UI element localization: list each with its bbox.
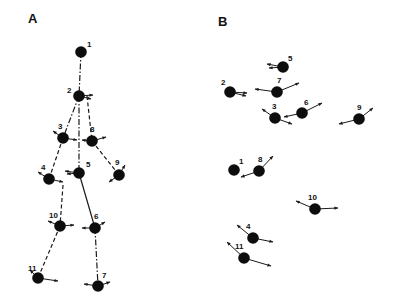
joint-label-1: 1 xyxy=(87,40,92,49)
joint-label-9: 9 xyxy=(357,103,362,112)
joint-node-8 xyxy=(86,135,98,147)
joint-node-6 xyxy=(89,222,101,234)
joint-node-4 xyxy=(43,173,55,185)
joint-label-3: 3 xyxy=(272,102,277,111)
joint-label-4: 4 xyxy=(41,163,46,172)
joint-label-11: 11 xyxy=(28,264,37,273)
edge-5-6 xyxy=(79,173,95,228)
edge-1-2 xyxy=(79,52,81,96)
joint-node-3 xyxy=(269,112,281,124)
velocity-arrows xyxy=(30,95,125,286)
edge-6-7 xyxy=(95,228,98,286)
joint-label-6: 6 xyxy=(304,98,309,107)
joint-label-11: 11 xyxy=(235,242,244,251)
edge-2-8 xyxy=(87,96,92,141)
joint-label-10: 10 xyxy=(308,193,317,202)
edge-2-3 xyxy=(63,96,79,138)
joint-node-3 xyxy=(57,132,69,144)
joint-label-2: 2 xyxy=(221,78,226,87)
joint-node-6 xyxy=(296,107,308,119)
joint-label-5: 5 xyxy=(288,54,293,63)
joint-label-7: 7 xyxy=(277,76,282,85)
joint-node-10 xyxy=(309,203,321,215)
joint-node-11 xyxy=(32,272,44,284)
joint-node-1 xyxy=(75,46,87,58)
joint-node-2 xyxy=(73,90,85,102)
joint-node-10 xyxy=(54,220,66,232)
edge-10-11 xyxy=(38,226,60,278)
joint-node-2 xyxy=(224,86,236,98)
joint-node-9 xyxy=(113,169,125,181)
joint-node-7 xyxy=(271,86,283,98)
joint-label-8: 8 xyxy=(258,155,263,164)
joint-node-8 xyxy=(253,165,265,177)
joint-label-2: 2 xyxy=(67,86,72,95)
joint-label-7: 7 xyxy=(102,271,107,280)
joint-label-8: 8 xyxy=(90,125,95,134)
joint-node-9 xyxy=(353,113,365,125)
panel-a: A 1238459106117 xyxy=(28,11,125,292)
panel-b-label: B xyxy=(218,14,227,29)
joint-label-1: 1 xyxy=(239,157,244,166)
joint-label-6: 6 xyxy=(94,212,99,221)
joint-label-3: 3 xyxy=(58,122,63,131)
joint-label-9: 9 xyxy=(115,158,120,167)
diagram-canvas: A 1238459106117 B 5273691810411 xyxy=(0,0,394,301)
joint-label-5: 5 xyxy=(86,160,91,169)
joint-node-11 xyxy=(238,252,250,264)
joint-nodes: 1238459106117 xyxy=(28,40,125,292)
joint-node-5 xyxy=(73,167,85,179)
joint-node-7 xyxy=(92,280,104,292)
edge-3-4 xyxy=(49,138,63,179)
joint-node-4 xyxy=(247,232,259,244)
joint-label-4: 4 xyxy=(246,222,251,231)
panel-a-label: A xyxy=(28,11,38,26)
joint-label-10: 10 xyxy=(49,211,58,220)
edge-4-10 xyxy=(60,185,63,226)
panel-b: B 5273691810411 xyxy=(218,14,373,266)
